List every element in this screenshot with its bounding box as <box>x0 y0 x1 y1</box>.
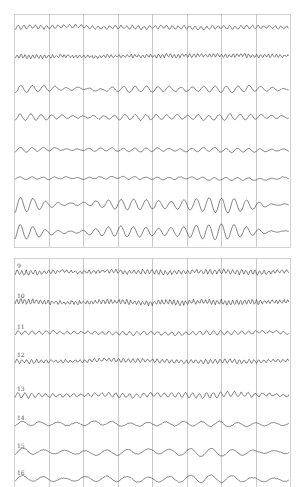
channel-label-12: 12 <box>17 351 25 358</box>
channel-label-10: 10 <box>17 292 25 299</box>
channel-label-13: 13 <box>17 385 25 392</box>
channel-label-9: 9 <box>17 262 21 269</box>
channel-label-16: 16 <box>17 469 25 476</box>
channel-label-11: 11 <box>17 323 25 330</box>
chart-background <box>0 0 301 487</box>
channel-label-15: 15 <box>17 442 25 449</box>
eeg-chart: 910111213141516 <box>0 0 301 487</box>
channel-label-14: 14 <box>17 414 25 421</box>
